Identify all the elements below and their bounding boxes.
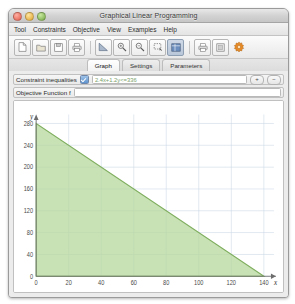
app-window: Graphical Linear Programming Tool Constr… [8,8,289,298]
toolbar-group-tools [95,39,185,56]
menu-item-constraints[interactable]: Constraints [33,24,66,35]
menu-item-help[interactable]: Help [163,24,176,35]
toolbar [9,36,288,59]
svg-text:100: 100 [194,280,204,286]
zoom-out-icon[interactable] [131,39,148,56]
x-axis-label: x [273,278,278,287]
objective-function-row: Objective Function f [13,87,284,98]
menu-item-view[interactable]: View [107,24,121,35]
svg-text:60: 60 [131,280,138,286]
feasible-region-chart: 04080120160200240280 020406080100120140 … [14,101,283,292]
svg-text:40: 40 [27,251,34,257]
zoom-in-icon[interactable] [113,39,130,56]
constraint-input[interactable]: 2.4x+1.2y<=336 [92,75,247,84]
constraint-enabled-checkbox[interactable] [80,75,89,84]
graph-plot-area[interactable]: 04080120160200240280 020406080100120140 … [13,100,284,293]
grid-view-icon[interactable] [167,39,184,56]
screenshot-root: Graphical Linear Programming Tool Constr… [0,0,295,304]
svg-text:80: 80 [27,230,34,236]
toolbar-group-file [14,39,86,56]
svg-text:120: 120 [227,280,237,286]
save-disk-icon[interactable] [50,39,67,56]
menu-item-examples[interactable]: Examples [128,24,157,35]
toolbar-separator-2 [189,41,190,54]
svg-text:140: 140 [259,280,269,286]
svg-text:200: 200 [24,164,34,170]
objective-function-label: Objective Function f [16,89,71,96]
window-titlebar[interactable]: Graphical Linear Programming [9,9,288,23]
remove-constraint-button[interactable]: − [267,75,281,85]
svg-text:40: 40 [98,280,105,286]
open-folder-icon[interactable] [32,39,49,56]
y-axis-label: y [29,112,34,121]
tab-settings[interactable]: Settings [122,59,160,71]
print-icon[interactable] [68,39,85,56]
svg-text:240: 240 [24,142,34,148]
svg-text:80: 80 [163,280,170,286]
constraint-inequalities-row: Constraint inequalities 2.4x+1.2y<=336 +… [13,74,284,85]
menu-item-tool[interactable]: Tool [14,24,26,35]
objective-function-input[interactable] [74,88,281,97]
constraint-inequalities-label: Constraint inequalities [16,76,77,83]
svg-text:120: 120 [24,208,34,214]
selection-rect-icon[interactable] [149,39,166,56]
window-title: Graphical Linear Programming [9,10,288,21]
svg-text:280: 280 [24,120,34,126]
toolbar-separator-1 [90,41,91,54]
new-document-icon[interactable] [14,39,31,56]
export-print-icon[interactable] [194,39,211,56]
add-constraint-button[interactable]: + [250,75,264,85]
svg-text:20: 20 [66,280,73,286]
graph-panel: Constraint inequalities 2.4x+1.2y<=336 +… [9,71,288,297]
svg-text:160: 160 [24,186,34,192]
window-panel-icon[interactable] [212,39,229,56]
tab-parameters[interactable]: Parameters [162,59,210,71]
toolbar-group-output [194,39,248,56]
constraint-input-value: 2.4x+1.2y<=336 [95,77,137,83]
region-shade-icon[interactable] [95,39,112,56]
tab-graph[interactable]: Graph [87,59,120,71]
tabbar: Graph Settings Parameters [9,59,288,71]
menu-item-objective[interactable]: Objective [73,24,100,35]
preferences-gear-icon[interactable] [230,39,247,56]
menubar: Tool Constraints Objective View Examples… [9,23,288,36]
